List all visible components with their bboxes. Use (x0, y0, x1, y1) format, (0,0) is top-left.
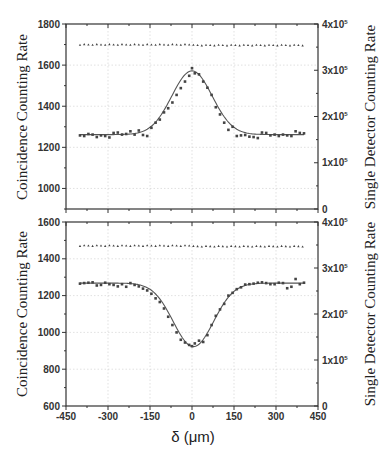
data-point-triangle (226, 245, 228, 247)
data-point-triangle (100, 245, 102, 247)
y-tick-label-left: 1000 (38, 183, 61, 194)
data-point-square (129, 282, 132, 285)
data-point-square (79, 282, 82, 285)
data-point-triangle (238, 245, 240, 247)
y-tick-label-right: 3x105 (322, 263, 348, 274)
data-point-triangle (159, 43, 161, 45)
data-point-triangle (280, 44, 282, 46)
data-point-square (215, 315, 218, 318)
data-point-square (231, 125, 234, 128)
data-point-square (278, 135, 281, 138)
data-point-triangle (79, 44, 81, 46)
y-tick-label-right: 3x105 (322, 65, 348, 76)
y-tick-label-right: 0 (322, 204, 328, 215)
data-point-triangle (293, 44, 295, 46)
chart-canvas: 1000120014001600180001x1052x1053x1054x10… (0, 0, 388, 462)
y-tick-label-left: 1600 (38, 217, 61, 228)
y-tick-label-left: 600 (43, 401, 60, 412)
data-point-square (100, 134, 103, 137)
y-tick-label-left: 1400 (38, 253, 61, 264)
data-point-square (159, 301, 162, 304)
top-ylabel-left: Coincidence Counting Rate (14, 34, 30, 200)
data-point-triangle (125, 245, 127, 247)
data-point-square (87, 281, 90, 284)
data-point-triangle (230, 245, 232, 247)
data-point-triangle (154, 44, 156, 46)
data-point-square (138, 285, 141, 288)
data-point-triangle (146, 43, 148, 45)
data-point-square (219, 308, 222, 311)
data-point-triangle (264, 245, 266, 247)
data-point-triangle (209, 44, 211, 46)
data-point-triangle (192, 245, 194, 247)
data-point-square (261, 281, 264, 284)
data-point-triangle (117, 44, 119, 46)
data-point-square (282, 133, 285, 136)
data-point-triangle (230, 44, 232, 46)
data-point-triangle (117, 245, 119, 247)
data-point-triangle (175, 43, 177, 45)
data-point-square (191, 67, 194, 70)
data-point-triangle (238, 44, 240, 46)
y-tick-label-right: 4x105 (322, 217, 348, 228)
data-point-square (175, 331, 178, 334)
data-point-square (180, 87, 183, 90)
top-ylabel-right: Single Detector Counting Rate (362, 24, 378, 209)
data-point-square (159, 118, 162, 121)
data-point-triangle (129, 44, 131, 46)
data-point-triangle (112, 245, 114, 247)
y-tick-label-left: 1200 (38, 142, 61, 153)
y-tick-label-left: 1000 (38, 327, 61, 338)
y-tick-label-left: 1200 (38, 290, 61, 301)
data-point-triangle (264, 44, 266, 46)
data-point-triangle (259, 44, 261, 46)
x-tick-label: 150 (226, 411, 243, 422)
data-point-triangle (209, 245, 211, 247)
x-tick-label: 0 (189, 411, 195, 422)
data-point-square (108, 136, 111, 139)
data-point-triangle (213, 245, 215, 247)
data-point-triangle (96, 244, 98, 246)
data-point-triangle (226, 44, 228, 46)
data-point-square (206, 334, 209, 337)
data-point-square (236, 288, 239, 291)
data-point-square (290, 285, 293, 288)
data-point-square (206, 86, 209, 89)
data-point-square (138, 129, 141, 132)
data-point-triangle (217, 245, 219, 247)
data-point-square (191, 345, 194, 348)
data-point-triangle (255, 44, 257, 46)
data-point-triangle (180, 44, 182, 46)
data-point-triangle (297, 245, 299, 247)
data-point-square (96, 136, 99, 139)
data-point-triangle (133, 244, 135, 246)
data-point-triangle (251, 44, 253, 46)
data-point-triangle (272, 44, 274, 46)
data-point-square (215, 106, 218, 109)
data-point-square (112, 132, 115, 135)
y-tick-label-left: 800 (43, 364, 60, 375)
data-point-triangle (104, 245, 106, 247)
data-point-triangle (217, 44, 219, 46)
data-point-square (273, 283, 276, 286)
data-point-square (154, 297, 157, 300)
data-point-triangle (205, 245, 207, 247)
data-point-square (223, 303, 226, 306)
data-point-triangle (259, 245, 261, 247)
data-point-triangle (121, 244, 123, 246)
data-point-triangle (268, 44, 270, 46)
y-tick-label-right: 1x105 (322, 355, 348, 366)
data-point-square (198, 339, 201, 342)
data-point-square (202, 80, 205, 83)
data-point-triangle (125, 43, 127, 45)
data-point-square (210, 94, 213, 97)
data-point-square (100, 284, 103, 287)
data-point-square (202, 341, 205, 344)
data-point-triangle (201, 44, 203, 46)
data-point-square (154, 121, 157, 124)
data-point-square (244, 134, 247, 137)
data-point-square (240, 286, 243, 289)
data-point-triangle (159, 244, 161, 246)
data-point-square (133, 133, 136, 136)
data-point-square (83, 282, 86, 285)
